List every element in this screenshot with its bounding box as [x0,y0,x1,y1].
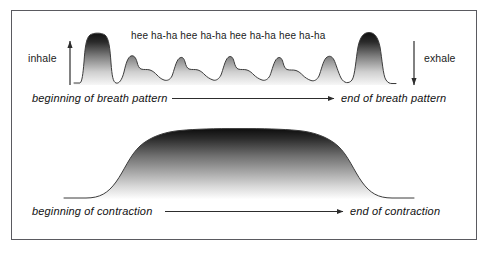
inhale-label: inhale [28,52,57,64]
breath-caption-end: end of breath pattern [341,92,446,104]
contraction-caption-start: beginning of contraction [32,205,152,217]
breath-caption-start: beginning of breath pattern [32,92,168,104]
breathing-contraction-figure: inhale exhale hee ha-ha hee ha-ha hee ha… [0,0,493,257]
exhale-label: exhale [424,52,456,64]
chant-label: hee ha-ha hee ha-ha hee ha-ha hee ha-ha [131,30,325,41]
contraction-caption-end: end of contraction [350,205,440,217]
